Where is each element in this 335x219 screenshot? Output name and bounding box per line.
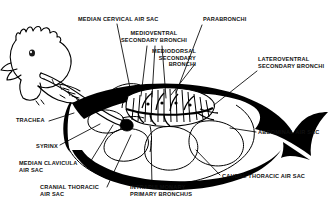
label-syrinx: SYRINX — [36, 143, 58, 150]
label-mediodorsal-secondary-bronchi: MEDIODORSAL SECONDARY BRONCHI — [141, 48, 196, 68]
leader-trachea — [49, 113, 74, 121]
label-medioventral-secondary-bronchi: MEDIOVENTRAL SECONDARY BRONCHI — [117, 30, 191, 43]
head-outline — [38, 42, 71, 88]
label-cranial-thoracic-air-sac: CRANIAL THORACIC AIR SAC — [40, 184, 110, 197]
comb-icon — [16, 27, 61, 43]
label-parabronchi: PARABRONCHI — [203, 16, 247, 23]
label-lateroventral-secondary-bronchi: LATEROVENTRAL SECONDARY BRONCHI — [258, 56, 332, 69]
eye-icon — [29, 49, 35, 56]
leader-median-clavicula-air-sac — [89, 125, 113, 164]
leader-caudal-thoracic-air-sac — [196, 150, 220, 175]
rooster-head-group — [1, 27, 82, 104]
label-abdominal-air-sac: ABDOMINAL AIR SAC — [258, 129, 319, 136]
label-median-cervical-air-sac: MEDIAN CERVICAL AIR SAC — [78, 16, 159, 23]
label-caudal-thoracic-air-sac: CAUDAL THORACIC AIR SAC — [222, 173, 305, 180]
head-back-outline — [10, 40, 21, 80]
beak-upper — [1, 63, 17, 71]
label-intrapulmonary-primary-bronchus: INTRAPULMONARY PRIMARY BRONCHUS — [130, 184, 202, 197]
label-median-clavicula-air-sac: MEDIAN CLAVICULA AIR SAC — [19, 160, 89, 173]
leader-abdominal-air-sac — [230, 128, 256, 132]
leader-intrapulmonary-primary-bronchus — [151, 141, 152, 185]
eye-highlight-icon — [30, 51, 32, 53]
respiratory-diagram-figure: MEDIAN CERVICAL AIR SAC MEDIOVENTRAL SEC… — [0, 0, 335, 219]
wattle-icon — [20, 80, 41, 100]
label-trachea: TRACHEA — [16, 117, 45, 124]
